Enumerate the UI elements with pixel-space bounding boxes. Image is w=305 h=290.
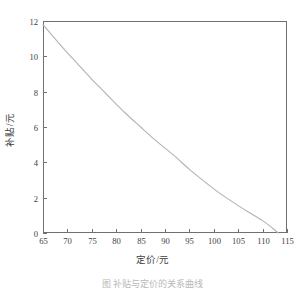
x-tick-label: 75	[88, 236, 97, 246]
x-tick-label: 110	[257, 236, 270, 246]
x-tick-label: 100	[208, 236, 221, 246]
x-tick-label: 115	[281, 236, 294, 246]
x-tick-label: 80	[112, 236, 121, 246]
y-tick-label: 2	[34, 194, 38, 204]
plot-frame	[44, 22, 287, 233]
x-tick-label: 85	[137, 236, 146, 246]
y-tick-label: 10	[29, 52, 38, 62]
y-tick-label: 12	[29, 17, 38, 27]
x-tick-label: 70	[63, 236, 72, 246]
x-tick-label: 65	[39, 236, 48, 246]
figure-caption: 图 补贴与定价的关系曲线	[0, 277, 305, 290]
x-tick-label: 90	[161, 236, 170, 246]
y-tick-label: 0	[34, 229, 38, 239]
data-series-line	[43, 25, 278, 233]
x-axis-label: 定价/元	[0, 252, 305, 266]
y-axis-label: 补贴/元	[2, 100, 16, 160]
x-tick-label: 95	[185, 236, 194, 246]
y-tick-label: 4	[34, 158, 39, 168]
y-tick-label: 6	[34, 123, 39, 133]
x-tick-label: 105	[232, 236, 245, 246]
y-tick-label: 8	[34, 88, 38, 98]
